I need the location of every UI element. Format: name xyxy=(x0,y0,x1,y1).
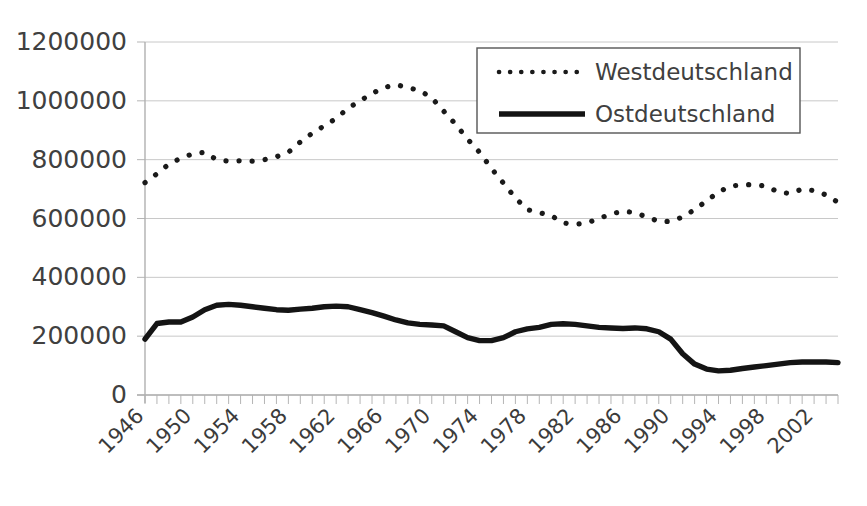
legend-label-ostdeutschland: Ostdeutschland xyxy=(595,101,775,127)
x-axis-tick-label: 1978 xyxy=(476,404,531,459)
y-axis-tick-label: 400000 xyxy=(32,262,127,291)
x-axis-tick-label: 1946 xyxy=(94,404,149,459)
x-axis-tick-label: 1950 xyxy=(142,404,197,459)
x-axis-tick-label: 1986 xyxy=(572,404,627,459)
series-line-ostdeutschland xyxy=(145,304,838,370)
chart-legend: WestdeutschlandOstdeutschland xyxy=(477,48,800,133)
x-axis-tick-label: 1998 xyxy=(715,404,770,459)
y-axis-tick-label: 0 xyxy=(111,380,127,409)
legend-label-westdeutschland: Westdeutschland xyxy=(595,59,793,85)
y-axis-tick-label: 600000 xyxy=(32,204,127,233)
x-axis-tick-label: 1958 xyxy=(237,404,292,459)
y-axis-tick-label: 1000000 xyxy=(16,86,127,115)
y-axis-tick-labels: 020000040000060000080000010000001200000 xyxy=(16,27,127,409)
x-axis-tick-labels: 1946195019541958196219661970197419781982… xyxy=(94,404,818,459)
x-axis-tick-label: 1974 xyxy=(428,404,483,459)
x-axis-tick-label: 1970 xyxy=(381,404,436,459)
x-axis-tick-label: 1994 xyxy=(667,404,722,459)
x-axis-tick-label: 1962 xyxy=(285,404,340,459)
chart-container: 020000040000060000080000010000001200000 … xyxy=(0,0,867,506)
y-axis-tick-label: 1200000 xyxy=(16,27,127,56)
x-axis-tick-label: 1966 xyxy=(333,404,388,459)
x-axis-tick-label: 2002 xyxy=(763,404,818,459)
x-axis-tick-label: 1982 xyxy=(524,404,579,459)
line-chart: 020000040000060000080000010000001200000 … xyxy=(0,0,867,506)
y-axis-tick-label: 800000 xyxy=(32,145,127,174)
y-axis-tick-label: 200000 xyxy=(32,321,127,350)
x-axis-tick-label: 1954 xyxy=(189,404,244,459)
x-axis-tick-label: 1990 xyxy=(619,404,674,459)
